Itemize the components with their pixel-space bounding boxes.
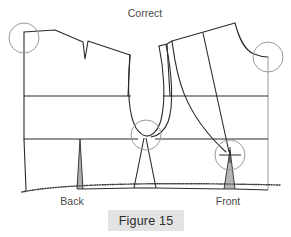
front-dart-crosshair-icon (219, 147, 241, 163)
hem-segment-center (156, 188, 224, 189)
front-label: Front (216, 195, 241, 207)
figure-15-container: Correct Back Front Figure 15 (0, 0, 291, 237)
back-bodice-panel (24, 30, 130, 190)
back-center-edge-flare (24, 139, 26, 190)
front-slash-line-b (203, 33, 229, 152)
armhole-left-curve (129, 55, 147, 136)
back-label: Back (60, 195, 84, 207)
center-dart-right (146, 138, 156, 188)
front-bodice-panel (159, 23, 268, 152)
hem-segment-back (83, 188, 134, 189)
back-dart (77, 139, 83, 189)
center-dart (134, 138, 156, 188)
front-slash-line-c (167, 44, 170, 96)
armhole-right-curve (147, 46, 164, 136)
back-shoulder-line (24, 30, 130, 59)
front-neckline-curve (235, 23, 268, 57)
figure-caption-box: Figure 15 (108, 210, 184, 231)
figure-caption-text: Figure 15 (119, 214, 174, 228)
hem-solid-segments (83, 188, 268, 190)
back-dart-fill (77, 139, 83, 189)
horizontal-guides (24, 96, 268, 139)
pattern-diagram: Correct Back Front (0, 0, 291, 237)
center-armhole-curve (129, 45, 172, 137)
correct-label: Correct (128, 7, 163, 19)
front-shoulder-line (159, 23, 235, 46)
hem-segment-front (235, 189, 268, 190)
